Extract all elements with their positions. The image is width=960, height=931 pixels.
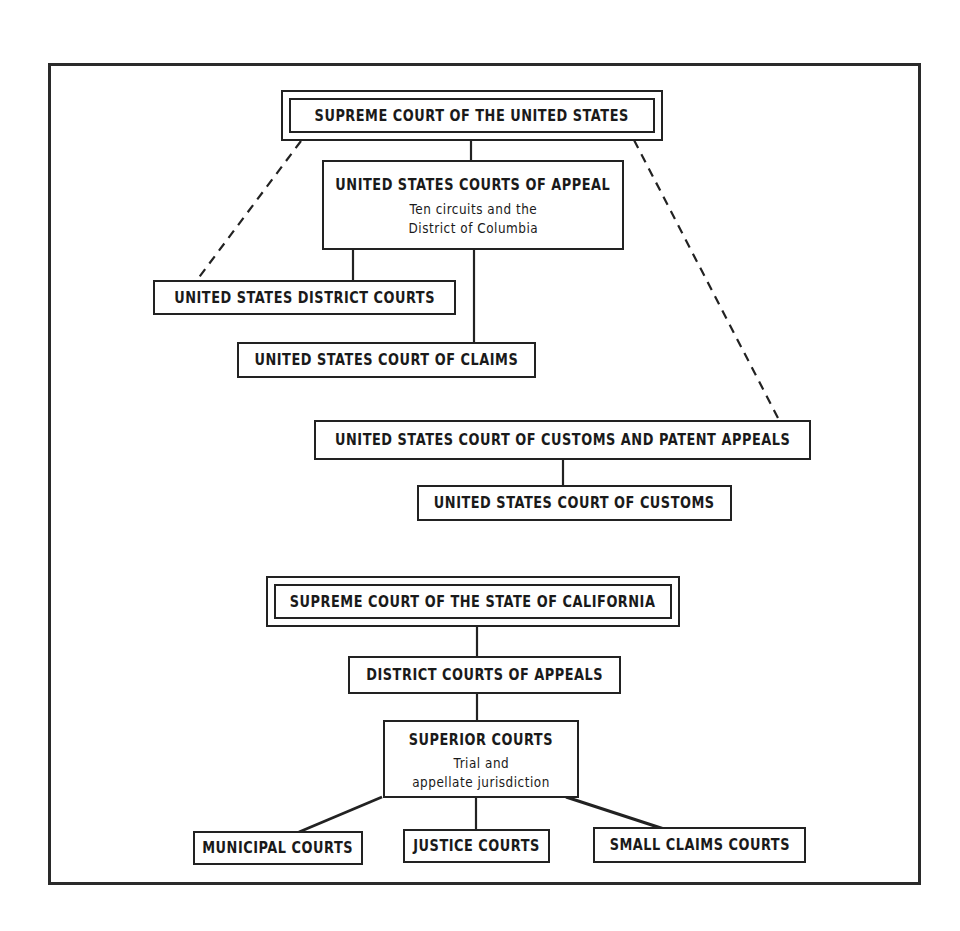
connector-superior-to-municipal — [299, 797, 382, 832]
node-subtitle-line2: District of Columbia — [408, 219, 538, 238]
node-subtitle-line2: appellate jurisdiction — [412, 773, 550, 792]
node-us-supreme-court: SUPREME COURT OF THE UNITED STATES — [281, 90, 663, 141]
node-title: SUPREME COURT OF THE UNITED STATES — [315, 107, 629, 125]
node-inner-border: SUPREME COURT OF THE STATE OF CALIFORNIA — [274, 584, 672, 619]
node-title: MUNICIPAL COURTS — [203, 839, 354, 857]
node-title: UNITED STATES DISTRICT COURTS — [174, 289, 435, 307]
node-us-court-customs-patent-appeals: UNITED STATES COURT OF CUSTOMS AND PATEN… — [314, 420, 811, 460]
node-title: UNITED STATES COURT OF CUSTOMS — [434, 494, 715, 512]
node-title: JUSTICE COURTS — [413, 837, 540, 855]
node-title: SMALL CLAIMS COURTS — [609, 836, 789, 854]
node-title: DISTRICT COURTS OF APPEALS — [366, 666, 603, 684]
node-ca-district-courts-of-appeals: DISTRICT COURTS OF APPEALS — [348, 656, 621, 694]
node-title: SUPREME COURT OF THE STATE OF CALIFORNIA — [290, 593, 656, 611]
node-us-courts-of-appeal: UNITED STATES COURTS OF APPEAL Ten circu… — [322, 160, 624, 250]
node-us-court-of-customs: UNITED STATES COURT OF CUSTOMS — [417, 485, 732, 521]
node-ca-superior-courts: SUPERIOR COURTS Trial and appellate juri… — [383, 720, 579, 798]
node-title: UNITED STATES COURT OF CUSTOMS AND PATEN… — [335, 431, 790, 449]
connector-superior-to-small-claims — [566, 797, 664, 829]
node-ca-supreme-court: SUPREME COURT OF THE STATE OF CALIFORNIA — [266, 576, 680, 627]
node-ca-municipal-courts: MUNICIPAL COURTS — [193, 831, 363, 865]
node-us-district-courts: UNITED STATES DISTRICT COURTS — [153, 280, 456, 315]
node-us-court-of-claims: UNITED STATES COURT OF CLAIMS — [237, 342, 536, 378]
node-title: SUPERIOR COURTS — [409, 731, 553, 749]
node-subtitle-line1: Ten circuits and the — [409, 200, 537, 219]
node-subtitle-line1: Trial and — [453, 754, 509, 773]
node-ca-justice-courts: JUSTICE COURTS — [403, 829, 550, 863]
node-title: UNITED STATES COURTS OF APPEAL — [336, 176, 611, 194]
node-inner-border: SUPREME COURT OF THE UNITED STATES — [289, 98, 655, 133]
node-ca-small-claims-courts: SMALL CLAIMS COURTS — [593, 827, 806, 863]
dashed-supreme-to-cpa — [634, 140, 778, 418]
dashed-supreme-to-district — [197, 141, 301, 280]
node-title: UNITED STATES COURT OF CLAIMS — [255, 351, 519, 369]
